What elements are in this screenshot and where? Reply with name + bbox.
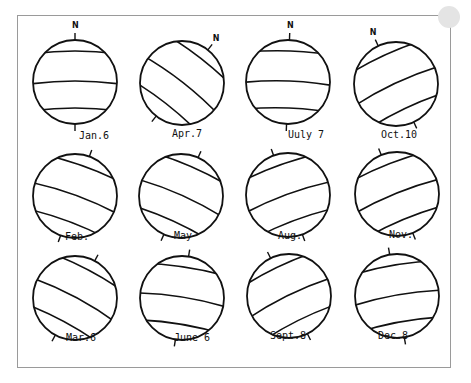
date-label: Uuly 7 bbox=[288, 130, 324, 140]
globe-grid bbox=[0, 0, 471, 383]
cloud-belts bbox=[340, 256, 453, 334]
globe bbox=[23, 33, 127, 131]
pole-axis-ticks bbox=[375, 40, 416, 129]
date-label: Mar.6 bbox=[66, 333, 96, 343]
globe bbox=[337, 146, 456, 242]
date-label: Nov. bbox=[389, 230, 413, 240]
globe bbox=[235, 33, 341, 131]
pole-axis-ticks bbox=[286, 33, 289, 131]
cloud-belts bbox=[235, 49, 341, 114]
date-label: Dec.8 bbox=[378, 331, 408, 341]
north-marker: N bbox=[370, 29, 377, 37]
north-marker: N bbox=[213, 35, 220, 43]
planet-disk bbox=[140, 41, 224, 125]
planet-disk bbox=[140, 256, 224, 340]
cloud-belts bbox=[126, 259, 238, 336]
date-label: Feb. bbox=[65, 232, 89, 242]
date-label: Sept.8 bbox=[270, 331, 306, 341]
north-marker: N bbox=[72, 22, 79, 30]
globe bbox=[336, 34, 456, 133]
planet-disk bbox=[355, 254, 439, 338]
date-label: June 6 bbox=[174, 333, 210, 343]
pole-axis-ticks bbox=[379, 149, 416, 240]
date-label: May bbox=[174, 231, 192, 241]
date-label: Jan.6 bbox=[79, 131, 109, 141]
globe bbox=[16, 149, 135, 242]
planet-disk bbox=[33, 154, 117, 238]
planet-disk bbox=[355, 152, 439, 236]
planet-disk bbox=[246, 153, 330, 237]
date-label: Oct.10 bbox=[381, 130, 417, 140]
date-label: Aug. bbox=[278, 231, 302, 241]
pole-axis-ticks bbox=[161, 151, 201, 241]
globe bbox=[229, 148, 348, 241]
globe bbox=[123, 27, 243, 139]
pole-axis-ticks bbox=[152, 44, 212, 121]
pole-axis-ticks bbox=[268, 252, 311, 340]
date-label: Apr.7 bbox=[172, 129, 202, 139]
north-marker: N bbox=[287, 22, 294, 30]
